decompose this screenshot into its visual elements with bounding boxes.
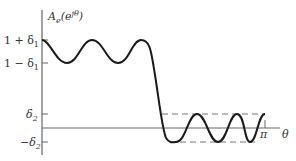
label-minus-delta2: −δ2 (20, 136, 41, 151)
label-1-minus-delta1: 1 − δ1 (4, 57, 39, 72)
label-theta: θ (282, 128, 289, 141)
amplitude-response-curve (42, 40, 265, 142)
label-1-plus-delta1: 1 + δ1 (4, 34, 39, 49)
y-axis-label: Ae(ejθ) (47, 9, 83, 25)
filter-response-diagram: Ae(ejθ) 1 + δ1 1 − δ1 δ2 −δ2 π θ (0, 0, 296, 161)
label-delta2: δ2 (26, 108, 38, 123)
label-pi: π (259, 128, 268, 141)
